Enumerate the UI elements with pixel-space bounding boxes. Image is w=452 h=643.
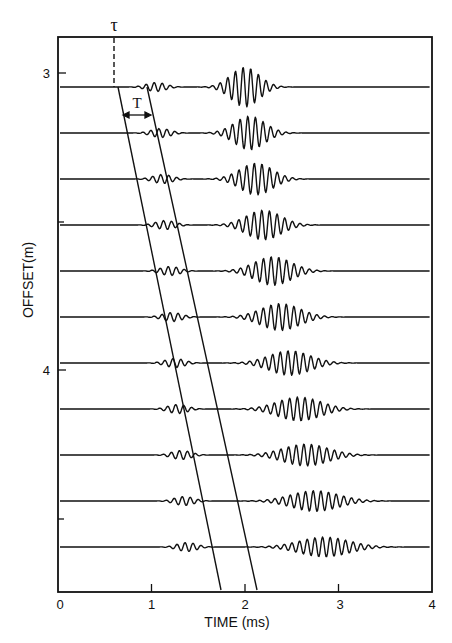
moveout-line-1 bbox=[118, 87, 221, 590]
y-tick-3: 3 bbox=[43, 66, 50, 81]
trace-3 bbox=[60, 164, 430, 195]
trace-1 bbox=[60, 68, 430, 107]
interval-arrow bbox=[123, 112, 151, 118]
seismic-trace-chart: 0 1 2 3 4 TIME (ms) 3 4 OFFSET(m) τ T bbox=[0, 0, 452, 643]
interval-label: T bbox=[132, 95, 141, 111]
x-tick-2: 2 bbox=[241, 597, 248, 612]
trace-6 bbox=[60, 304, 430, 331]
plot-frame bbox=[58, 37, 432, 592]
trace-4 bbox=[60, 210, 430, 239]
trace-5 bbox=[60, 257, 430, 285]
moveout-line-2 bbox=[147, 87, 257, 590]
trace-2 bbox=[60, 116, 430, 149]
x-tick-4: 4 bbox=[428, 597, 435, 612]
trace-7 bbox=[60, 351, 430, 375]
trace-11 bbox=[60, 537, 430, 557]
y-axis-title: OFFSET(m) bbox=[20, 242, 36, 318]
y-axis bbox=[58, 73, 66, 519]
trace-10 bbox=[60, 491, 430, 512]
x-tick-3: 3 bbox=[336, 597, 343, 612]
trace-9 bbox=[60, 444, 430, 466]
x-axis bbox=[152, 584, 339, 592]
trace-8 bbox=[60, 397, 430, 421]
y-tick-4: 4 bbox=[43, 363, 50, 378]
x-axis-title: TIME (ms) bbox=[204, 614, 269, 630]
x-tick-1: 1 bbox=[148, 597, 155, 612]
x-tick-0: 0 bbox=[56, 597, 63, 612]
tau-label: τ bbox=[110, 15, 117, 35]
wiggle-traces bbox=[60, 68, 430, 557]
